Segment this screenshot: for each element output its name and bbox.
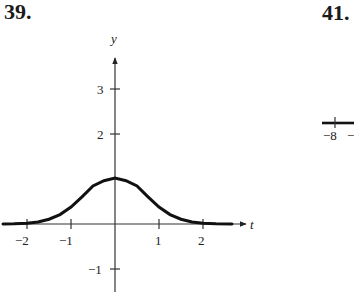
- x-tick-label-neg2: −2: [15, 233, 29, 248]
- figure-41-fragment: −8 −: [322, 117, 354, 143]
- x-tick-label-neg1: −1: [59, 233, 73, 248]
- y-axis-label: y: [109, 31, 117, 46]
- x-tick-label-1: 1: [155, 233, 162, 248]
- x-axis-label: t: [250, 217, 254, 232]
- figure-39-chart: 3 2 −1 −2 −1 1 2 y t −8 −: [0, 0, 354, 292]
- y-tick-label-2: 2: [97, 127, 104, 142]
- fig41-tick-label-partial: −: [347, 128, 354, 143]
- y-tick-label-3: 3: [97, 82, 104, 97]
- fig41-tick-label-neg8: −8: [323, 128, 337, 143]
- y-tick-label-neg1: −1: [88, 262, 102, 277]
- bell-curve: [3, 178, 232, 224]
- x-tick-label-2: 2: [198, 233, 205, 248]
